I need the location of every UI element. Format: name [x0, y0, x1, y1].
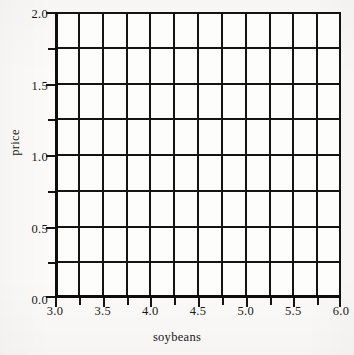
y-tick-1-75 — [48, 48, 55, 50]
x-tick-5-0 — [246, 298, 248, 307]
grid-lines — [55, 12, 341, 298]
y-tick-label-1-5: 1.5 — [8, 80, 48, 93]
x-tick-5-25 — [270, 298, 272, 305]
x-tick-5-75 — [317, 298, 319, 305]
x-tick-4-5 — [198, 298, 200, 307]
x-tick-3-75 — [127, 298, 129, 305]
chart-title — [0, 0, 354, 10]
chart-figure: price 2.0 1.5 1.0 0.5 0.0 3.0 3.5 4.0 4.… — [0, 0, 354, 355]
x-tick-4-25 — [174, 298, 176, 305]
x-axis-title-text: soybeans — [153, 330, 201, 345]
x-tick-3-0 — [55, 298, 57, 307]
x-tick-4-0 — [150, 298, 152, 307]
y-tick-1-0 — [46, 155, 55, 157]
y-tick-0-5 — [46, 227, 55, 229]
x-tick-3-5 — [103, 298, 105, 307]
y-tick-1-25 — [48, 119, 55, 121]
y-tick-1-5 — [46, 84, 55, 86]
y-tick-0-25 — [48, 262, 55, 264]
x-tick-3-25 — [79, 298, 81, 305]
x-tick-4-75 — [222, 298, 224, 305]
plot-area[interactable] — [55, 12, 341, 298]
x-axis-title: soybeans — [0, 330, 354, 345]
x-tick-5-5 — [293, 298, 295, 307]
x-tick-label-6-0: 6.0 — [321, 305, 354, 318]
y-tick-label-1-0: 1.0 — [8, 151, 48, 164]
y-tick-label-0-5: 0.5 — [8, 223, 48, 236]
y-tick-label-2-0: 2.0 — [8, 8, 48, 21]
x-tick-6-0 — [339, 298, 341, 307]
y-axis-title: price — [2, 135, 26, 150]
y-tick-0-0 — [46, 296, 55, 298]
y-tick-2-0 — [46, 12, 55, 14]
y-tick-0-75 — [48, 191, 55, 193]
